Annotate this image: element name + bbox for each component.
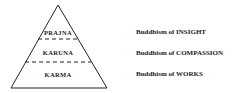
description-works: Buddhism of WORKS xyxy=(136,70,203,78)
pyramid-diagram xyxy=(0,0,244,93)
description-compassion: Buddhism of COMPASSION xyxy=(136,49,223,57)
level-label-karuna: KARUNA xyxy=(43,49,73,56)
level-label-prajna: PRAJNA xyxy=(44,29,72,36)
level-label-karma: KARMA xyxy=(45,71,72,78)
description-insight: Buddhism of INSIGHT xyxy=(136,28,206,36)
